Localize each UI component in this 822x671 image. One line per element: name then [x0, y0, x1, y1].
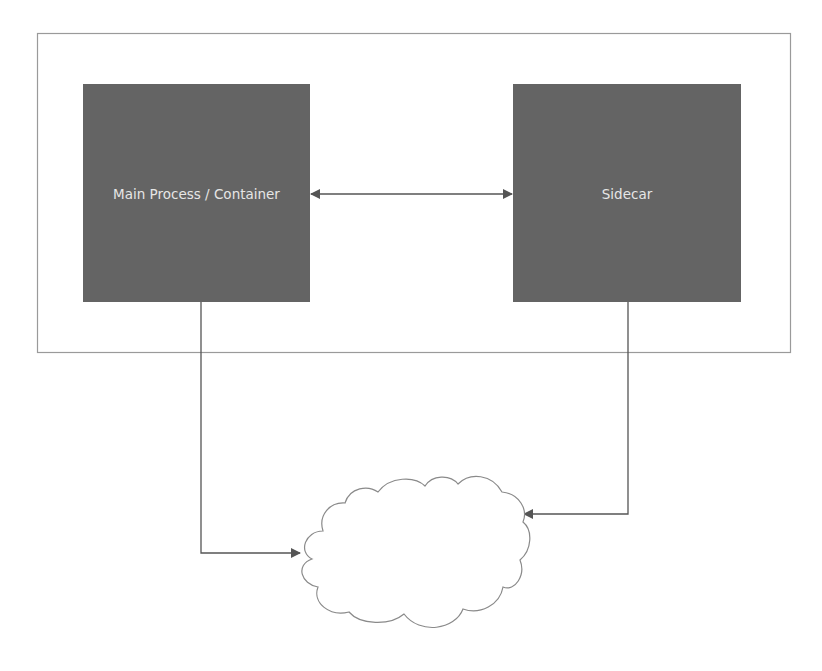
sidecar-label: Sidecar [602, 186, 653, 202]
cloud-icon [302, 476, 530, 627]
main-process-label: Main Process / Container [113, 186, 280, 202]
main-to-cloud-arrow [201, 302, 300, 553]
sidecar-diagram: Main Process / Container Sidecar [0, 0, 822, 671]
sidecar-node[interactable]: Sidecar [513, 84, 741, 302]
sidecar-to-cloud-arrow [524, 302, 628, 514]
main-process-node[interactable]: Main Process / Container [83, 84, 310, 302]
